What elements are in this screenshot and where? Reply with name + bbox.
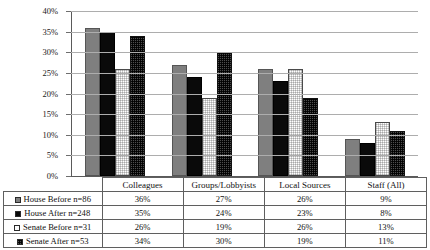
table-cell-value: 36% <box>102 192 183 206</box>
bar <box>187 77 202 176</box>
legend-swatch-icon <box>14 225 20 231</box>
table-cell-value: 11% <box>345 234 426 248</box>
table-cell-value: 26% <box>102 220 183 234</box>
legend-swatch-icon <box>17 239 23 245</box>
bar <box>345 139 360 176</box>
table-column-header: Groups/Lobbyists <box>183 178 264 192</box>
table-cell-value: 35% <box>102 206 183 220</box>
table-column-header: Colleagues <box>102 178 183 192</box>
bar <box>85 28 100 177</box>
gridline <box>71 135 418 136</box>
bar <box>303 98 318 176</box>
table-row: House Before n=8636%27%26%9% <box>4 192 427 206</box>
table-cell-value: 24% <box>183 206 264 220</box>
bar <box>288 69 303 176</box>
legend-label: House Before n=86 <box>24 194 91 204</box>
y-axis-tick-label: 15% <box>42 110 58 119</box>
gridline <box>71 32 418 33</box>
gridline <box>71 11 418 12</box>
bar <box>100 32 115 176</box>
table-column-header: Staff (All) <box>345 178 426 192</box>
y-axis-tick-label: 10% <box>42 130 58 139</box>
legend-entry: Senate After n=53 <box>4 234 103 248</box>
legend-entry: Senate Before n=31 <box>4 220 103 234</box>
table-header-row: ColleaguesGroups/LobbyistsLocal SourcesS… <box>4 178 427 192</box>
bar <box>202 98 217 176</box>
legend-label: Senate After n=53 <box>26 236 89 246</box>
gridline <box>71 73 418 74</box>
legend-entry: House After n=248 <box>4 206 103 220</box>
chart-figure: 40%35%30%25%20%15%10%5%0% ColleaguesGrou… <box>0 0 430 250</box>
table-cell-value: 13% <box>345 220 426 234</box>
y-axis-tick-label: 5% <box>47 151 58 160</box>
y-axis-tick-label: 40% <box>42 7 58 16</box>
table-cell-value: 30% <box>183 234 264 248</box>
gridline <box>71 114 418 115</box>
bar <box>375 122 390 176</box>
gridline <box>71 155 418 156</box>
y-axis-tick-label: 20% <box>42 89 58 98</box>
plot-area: 40%35%30%25%20%15%10%5%0% <box>0 0 430 177</box>
table-cell-value: 26% <box>264 192 345 206</box>
table-cell-value: 26% <box>264 220 345 234</box>
table-cell-value: 19% <box>264 234 345 248</box>
data-table: ColleaguesGroups/LobbyistsLocal SourcesS… <box>3 177 427 248</box>
bar <box>258 69 273 176</box>
bar <box>115 69 130 176</box>
bar <box>360 143 375 176</box>
table-cell-value: 34% <box>102 234 183 248</box>
table-cell-value: 9% <box>345 192 426 206</box>
table-row: Senate After n=5334%30%19%11% <box>4 234 427 248</box>
table-corner-blank <box>4 178 103 192</box>
bar <box>273 81 288 176</box>
legend-label: Senate Before n=31 <box>23 222 91 232</box>
table-body: House Before n=8636%27%26%9%House After … <box>4 192 427 248</box>
legend-label: House After n=248 <box>24 208 90 218</box>
legend-entry: House Before n=86 <box>4 192 103 206</box>
table-row: Senate Before n=3126%19%26%13% <box>4 220 427 234</box>
gridline <box>71 52 418 53</box>
y-axis-tick-label: 35% <box>42 27 58 36</box>
gridline <box>71 94 418 95</box>
bar <box>390 131 405 176</box>
table-cell-value: 8% <box>345 206 426 220</box>
table-row: House After n=24835%24%23%8% <box>4 206 427 220</box>
y-axis-tick-label: 30% <box>42 48 58 57</box>
table-cell-value: 23% <box>264 206 345 220</box>
table-column-header: Local Sources <box>264 178 345 192</box>
legend-swatch-icon <box>15 197 21 203</box>
table-head: ColleaguesGroups/LobbyistsLocal SourcesS… <box>4 178 427 192</box>
y-axis-labels: 40%35%30%25%20%15%10%5%0% <box>0 0 66 177</box>
y-axis-tick-label: 25% <box>42 68 58 77</box>
table-cell-value: 27% <box>183 192 264 206</box>
table-cell-value: 19% <box>183 220 264 234</box>
bar <box>172 65 187 176</box>
legend-swatch-icon <box>15 211 21 217</box>
